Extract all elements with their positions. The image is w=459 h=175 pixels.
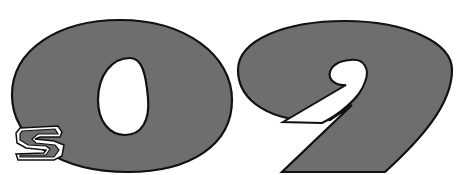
digit-nine (238, 21, 452, 172)
prefix-s (16, 126, 64, 160)
s09-logo-graphic (0, 0, 459, 175)
logo-canvas: s09 (0, 0, 459, 175)
